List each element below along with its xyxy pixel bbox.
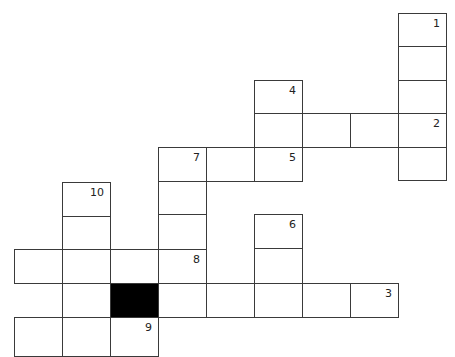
grid-cell[interactable]: [398, 147, 447, 181]
clue-number: 8: [193, 254, 200, 265]
clue-number: 9: [145, 322, 152, 333]
grid-cell[interactable]: [254, 113, 303, 148]
grid-cell[interactable]: [14, 249, 63, 284]
grid-cell[interactable]: [398, 46, 447, 81]
grid-cell[interactable]: [110, 249, 159, 284]
grid-cell[interactable]: [302, 283, 351, 318]
clue-number: 7: [193, 152, 200, 163]
grid-cell[interactable]: [62, 317, 111, 357]
numbered-cell-2[interactable]: 2: [398, 113, 447, 148]
clue-number: 2: [433, 118, 440, 129]
grid-cell[interactable]: [254, 283, 303, 318]
clue-number: 4: [289, 85, 296, 96]
grid-cell[interactable]: [62, 249, 111, 284]
grid-cell[interactable]: [398, 80, 447, 114]
clue-number: 3: [385, 288, 392, 299]
clue-number: 6: [289, 219, 296, 230]
grid-cell[interactable]: [158, 214, 207, 250]
numbered-cell-8[interactable]: 8: [158, 249, 207, 284]
numbered-cell-7[interactable]: 7: [158, 147, 207, 182]
black-cell: [110, 283, 159, 318]
numbered-cell-1[interactable]: 1: [398, 13, 447, 47]
grid-cell[interactable]: [206, 147, 255, 182]
grid-cell[interactable]: [14, 317, 63, 357]
grid-cell[interactable]: [158, 181, 207, 215]
numbered-cell-4[interactable]: 4: [254, 80, 303, 114]
grid-cell[interactable]: [62, 216, 111, 250]
clue-number: 10: [90, 187, 104, 198]
grid-cell[interactable]: [206, 283, 255, 318]
grid-cell[interactable]: [302, 113, 351, 148]
numbered-cell-10[interactable]: 10: [62, 182, 111, 217]
numbered-cell-3[interactable]: 3: [350, 283, 399, 318]
numbered-cell-6[interactable]: 6: [254, 214, 303, 249]
grid-cell[interactable]: [350, 113, 399, 148]
grid-cell[interactable]: [254, 248, 303, 284]
clue-number: 5: [289, 152, 296, 163]
numbered-cell-5[interactable]: 5: [254, 147, 303, 182]
grid-cell[interactable]: [62, 283, 111, 318]
grid-cell[interactable]: [158, 283, 207, 318]
clue-number: 1: [433, 18, 440, 29]
numbered-cell-9[interactable]: 9: [110, 317, 159, 357]
